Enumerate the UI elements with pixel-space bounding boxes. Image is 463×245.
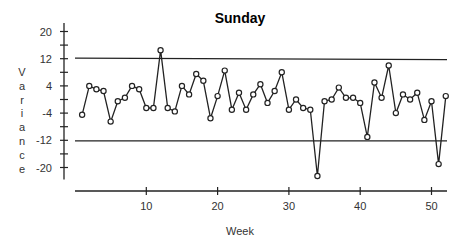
data-point-marker (379, 95, 384, 100)
data-point-marker (400, 92, 405, 97)
data-point-marker (229, 107, 234, 112)
data-point-marker (436, 162, 441, 167)
data-point-marker (322, 99, 327, 104)
data-point-marker (429, 99, 434, 104)
data-point-marker (336, 85, 341, 90)
data-point-marker (265, 100, 270, 105)
x-tick-label: 40 (354, 200, 366, 212)
data-point-marker (122, 95, 127, 100)
y-tick-label: -4 (42, 107, 52, 119)
y-axis-label-letter: c (19, 149, 25, 161)
chart-title: Sunday (215, 10, 266, 26)
data-point-marker (372, 80, 377, 85)
data-point-marker (443, 94, 448, 99)
data-point-marker (208, 116, 213, 121)
data-point-marker (87, 83, 92, 88)
data-point-marker (301, 105, 306, 110)
data-point-marker (251, 92, 256, 97)
data-point-marker (350, 95, 355, 100)
x-tick-label: 30 (283, 200, 295, 212)
data-point-marker (386, 63, 391, 68)
data-point-marker (172, 109, 177, 114)
data-point-marker (408, 97, 413, 102)
y-tick-label: -20 (36, 162, 52, 174)
data-point-marker (244, 107, 249, 112)
data-point-marker (186, 92, 191, 97)
y-tick-label: 12 (40, 53, 52, 65)
y-axis-label: Variance (18, 66, 26, 175)
data-point-marker (365, 134, 370, 139)
y-axis-label-letter: a (19, 80, 26, 92)
data-series (80, 48, 449, 179)
data-point-marker (158, 48, 163, 53)
data-point-marker (393, 111, 398, 116)
x-tick-label: 50 (425, 200, 437, 212)
data-point-marker (80, 112, 85, 117)
control-limit-lines (75, 58, 447, 141)
data-point-marker (258, 82, 263, 87)
data-point-marker (286, 107, 291, 112)
x-tick-label: 10 (140, 200, 152, 212)
data-point-marker (415, 90, 420, 95)
data-point-marker (308, 107, 313, 112)
data-point-marker (151, 105, 156, 110)
y-axis-label-letter: n (19, 135, 25, 147)
data-point-marker (137, 87, 142, 92)
data-point-marker (194, 71, 199, 76)
data-point-marker (201, 78, 206, 83)
x-axis-label: Week (226, 225, 254, 237)
data-point-marker (115, 99, 120, 104)
data-point-marker (129, 83, 134, 88)
data-point-marker (94, 87, 99, 92)
y-axis-label-letter: r (20, 94, 24, 106)
data-point-marker (358, 100, 363, 105)
y-tick-label: -12 (36, 134, 52, 146)
data-point-marker (179, 83, 184, 88)
chart-canvas: Sunday 20124-4-12-20 Variance 1020304050… (0, 0, 463, 245)
y-tick-label: 20 (40, 26, 52, 38)
y-axis-label-letter: a (19, 121, 26, 133)
y-axis: 20124-4-12-20 (36, 23, 68, 179)
data-point-marker (236, 90, 241, 95)
y-axis-label-letter: e (19, 163, 25, 175)
data-point-marker (165, 105, 170, 110)
data-point-marker (315, 173, 320, 178)
data-point-marker (108, 119, 113, 124)
data-point-marker (293, 97, 298, 102)
series-line (82, 50, 446, 176)
data-point-marker (215, 94, 220, 99)
data-point-marker (272, 88, 277, 93)
upper-control-limit (75, 58, 447, 60)
y-axis-label-letter: V (18, 66, 26, 78)
data-point-marker (222, 68, 227, 73)
data-point-marker (329, 97, 334, 102)
x-tick-label: 20 (211, 200, 223, 212)
data-point-marker (422, 117, 427, 122)
data-point-marker (343, 95, 348, 100)
data-point-marker (144, 105, 149, 110)
data-point-marker (279, 70, 284, 75)
data-point-marker (101, 88, 106, 93)
y-axis-label-letter: i (21, 107, 23, 119)
x-axis: 1020304050 (75, 187, 447, 212)
y-tick-label: 4 (46, 80, 52, 92)
